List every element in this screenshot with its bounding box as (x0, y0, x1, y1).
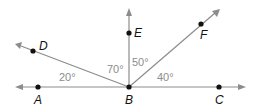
label-B: B (125, 93, 133, 107)
label-A: A (33, 93, 42, 107)
arrowhead-upleft-icon (15, 42, 22, 49)
angle-EBF: 50° (132, 56, 149, 68)
label-F: F (200, 28, 208, 42)
point-B (126, 84, 131, 89)
label-E: E (134, 26, 143, 40)
arrowhead-right-icon (238, 84, 246, 90)
angle-ABD: 20° (59, 71, 76, 83)
arrowhead-upright-icon (212, 9, 220, 17)
point-E (126, 30, 131, 35)
angle-DBE: 70° (107, 63, 124, 75)
point-A (35, 84, 40, 89)
label-C: C (215, 93, 224, 107)
angle-diagram: A B C D E F 20° 70° 50° 40° (0, 0, 263, 112)
arrowhead-left-icon (15, 84, 23, 90)
point-F (198, 21, 203, 26)
label-D: D (39, 39, 48, 53)
point-C (216, 84, 221, 89)
angle-FBC: 40° (157, 71, 174, 83)
arrowhead-up-icon (126, 8, 132, 16)
point-D (30, 48, 35, 53)
